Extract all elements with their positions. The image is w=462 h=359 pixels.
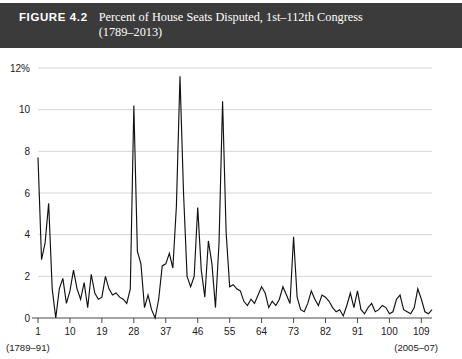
y-axis-tick-label-8: 8 <box>24 146 30 157</box>
x-axis-tick-label-64: 64 <box>256 326 268 337</box>
x-axis-tick-label-109: 109 <box>413 326 430 337</box>
figure-header-content: FIGURE 4.2 Percent of House Seats Disput… <box>19 10 454 40</box>
x-axis-tick-label-100: 100 <box>381 326 398 337</box>
x-axis-tick-label-55: 55 <box>224 326 236 337</box>
y-axis-tick-label-2: 2 <box>24 271 30 282</box>
x-axis-tick-label-19: 19 <box>96 326 108 337</box>
x-axis-tick-label-73: 73 <box>288 326 300 337</box>
figure-header-bar: FIGURE 4.2 Percent of House Seats Disput… <box>0 3 462 48</box>
x-axis-tick-label-1: 1 <box>35 326 41 337</box>
x-axis-tick-label-91: 91 <box>352 326 364 337</box>
y-axis-tick-label-6: 6 <box>24 188 30 199</box>
figure-title: Percent of House Seats Disputed, 1st–112… <box>99 10 454 40</box>
x-axis-left-note: (1789–91) <box>6 342 50 353</box>
y-axis-tick-label-0: 0 <box>24 313 30 324</box>
x-axis-tick-label-37: 37 <box>160 326 172 337</box>
figure-root: FIGURE 4.2 Percent of House Seats Disput… <box>0 0 462 359</box>
figure-number-label: FIGURE 4.2 <box>19 10 88 25</box>
x-axis-tick-label-46: 46 <box>192 326 204 337</box>
figure-title-line-2: (1789–2013) <box>99 25 454 40</box>
data-series-line <box>38 76 432 318</box>
figure-title-line-1: Percent of House Seats Disputed, 1st–112… <box>99 10 454 25</box>
y-axis-tick-label-4: 4 <box>24 229 30 240</box>
x-axis-tick-label-28: 28 <box>128 326 140 337</box>
x-axis-right-note: (2005–07) <box>394 342 438 353</box>
line-chart: 12%1086420110192837465564738291100109(17… <box>0 48 462 359</box>
chart-plot-area: 12%1086420110192837465564738291100109(17… <box>0 48 462 359</box>
y-axis-tick-label-12: 12% <box>10 63 30 74</box>
x-axis-tick-label-82: 82 <box>320 326 332 337</box>
y-axis-tick-label-10: 10 <box>19 104 31 115</box>
x-axis-tick-label-10: 10 <box>64 326 76 337</box>
